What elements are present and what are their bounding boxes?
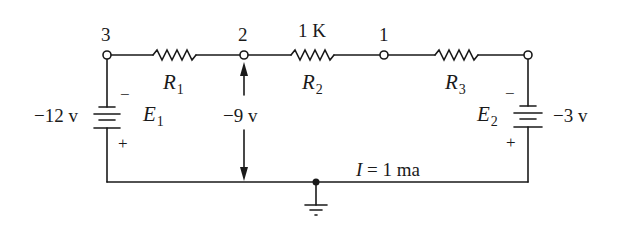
node-3-terminal (103, 51, 111, 59)
arrowhead-down-icon (240, 167, 248, 181)
node-3-label: 3 (101, 25, 111, 44)
node-1-terminal (380, 51, 388, 59)
e1-minus-sign: − (120, 86, 130, 103)
e2-plus-sign: + (506, 134, 516, 151)
resistor-r2-icon (291, 50, 334, 60)
e2-voltage-label: −3 v (553, 106, 587, 125)
r3-label: R3 (445, 72, 466, 93)
node-1-label: 1 (379, 25, 389, 44)
e1-voltage-label: −12 v (34, 106, 78, 125)
current-label: I = 1 ma (356, 160, 420, 179)
right-terminal (524, 51, 532, 59)
ground-icon (305, 205, 327, 215)
e1-label: E1 (143, 104, 164, 125)
r2-label: R2 (302, 72, 323, 93)
node-2-terminal (240, 51, 248, 59)
r2-value-label: 1 K (298, 21, 326, 40)
e2-label: E2 (477, 104, 498, 125)
measurement-voltage-label: −9 v (223, 106, 257, 125)
e2-minus-sign: − (505, 85, 515, 102)
e1-plus-sign: + (118, 135, 128, 152)
resistor-r1-icon (153, 50, 196, 60)
r1-label: R1 (163, 72, 184, 93)
resistor-r3-icon (435, 50, 478, 60)
ground-junction-dot (313, 179, 320, 186)
arrowhead-up-icon (240, 62, 248, 76)
node-2-label: 2 (238, 25, 248, 44)
